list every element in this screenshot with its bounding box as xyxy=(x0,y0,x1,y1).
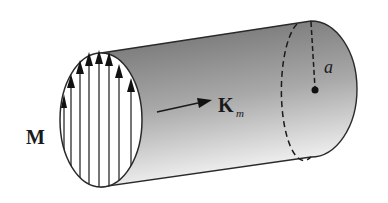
label-K: K xyxy=(218,94,234,116)
cylinder-face xyxy=(60,53,142,187)
label-M: M xyxy=(26,126,45,148)
label-K-subscript: m xyxy=(236,107,244,119)
cylinder-diagram: K m M a xyxy=(0,0,388,203)
label-a: a xyxy=(324,57,333,77)
center-dot xyxy=(312,87,319,94)
